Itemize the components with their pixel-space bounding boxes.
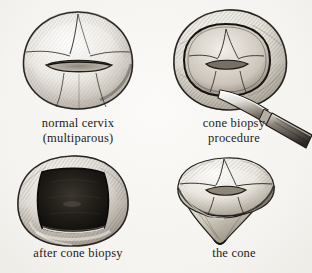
the-cone-illustration bbox=[156, 152, 312, 250]
caption-line-2: (multiparous) bbox=[0, 131, 156, 146]
caption-normal-cervix: normal cervix (multiparous) bbox=[0, 116, 156, 146]
caption-line-2: procedure bbox=[156, 131, 312, 146]
panel-the-cone: the cone bbox=[156, 152, 312, 273]
caption-line-1: normal cervix bbox=[42, 116, 114, 130]
caption-the-cone: the cone bbox=[156, 246, 312, 261]
panel-cone-biopsy-procedure: cone biopsy procedure bbox=[156, 4, 312, 152]
after-cone-biopsy-illustration bbox=[0, 152, 156, 250]
caption-after-cone-biopsy: after cone biopsy bbox=[0, 246, 156, 261]
caption-cone-biopsy-procedure: cone biopsy procedure bbox=[156, 116, 312, 146]
normal-cervix-illustration bbox=[0, 4, 156, 119]
panel-after-cone-biopsy: after cone biopsy bbox=[0, 152, 156, 273]
caption-line-1: cone biopsy bbox=[203, 116, 265, 130]
caption-line-1: the cone bbox=[212, 246, 256, 260]
figure-sheet: normal cervix (multiparous) bbox=[0, 0, 312, 273]
caption-line-1: after cone biopsy bbox=[33, 246, 122, 260]
panel-normal-cervix: normal cervix (multiparous) bbox=[0, 4, 156, 152]
